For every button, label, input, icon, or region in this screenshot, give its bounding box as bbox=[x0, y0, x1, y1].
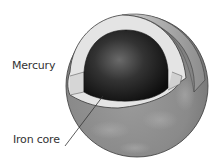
mercury-label: Mercury bbox=[12, 60, 55, 71]
iron-core-label: Iron core bbox=[13, 134, 60, 145]
mercury-cutaway-diagram: Mercury Iron core bbox=[0, 0, 215, 165]
